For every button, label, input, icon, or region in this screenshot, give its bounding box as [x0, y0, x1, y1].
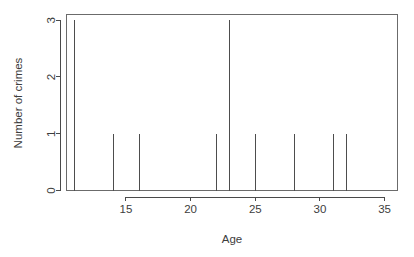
y-tick-label: 3: [45, 17, 57, 23]
x-axis: 1520253035: [120, 197, 391, 215]
chart-container: 0123 1520253035 Age Number of crimes: [0, 0, 414, 257]
x-tick-label: 20: [184, 203, 197, 215]
y-tick-label: 0: [45, 187, 57, 193]
x-tick-label: 25: [249, 203, 262, 215]
x-tick-label: 15: [120, 203, 133, 215]
spike-plot-svg: 0123 1520253035 Age Number of crimes: [0, 0, 414, 257]
y-tick-label: 2: [45, 74, 57, 80]
y-axis: 0123: [45, 17, 60, 194]
y-axis-title: Number of crimes: [12, 57, 24, 148]
data-spikes: [75, 20, 347, 190]
x-tick-label: 30: [314, 203, 327, 215]
x-tick-label: 35: [378, 203, 391, 215]
y-tick-label: 1: [45, 131, 57, 137]
plot-frame: [67, 15, 398, 191]
x-axis-title: Age: [222, 233, 242, 245]
